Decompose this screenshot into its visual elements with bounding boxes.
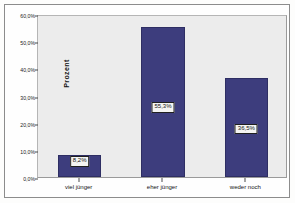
bar[interactable]: 55,3% xyxy=(141,27,184,177)
bar[interactable]: 36,5% xyxy=(225,78,268,177)
y-axis-tick-mark xyxy=(35,43,38,44)
y-axis-tick-label: 20,0% xyxy=(20,122,35,128)
y-axis-tick-mark xyxy=(35,151,38,152)
y-axis-tick-label: 0,0% xyxy=(23,176,35,182)
x-axis-tick-label: weder noch xyxy=(230,184,261,190)
y-axis-tick-mark xyxy=(35,124,38,125)
bar-value-label: 55,3% xyxy=(151,102,174,113)
plot-area: Prozent 0,0%10,0%20,0%30,0%40,0%50,0%60,… xyxy=(37,15,287,178)
y-axis-tick-label: 60,0% xyxy=(20,13,35,19)
x-axis-tick-label: eher jünger xyxy=(147,184,177,190)
y-axis-tick-mark xyxy=(35,70,38,71)
y-axis-tick-mark xyxy=(35,16,38,17)
x-axis: viel jüngereher jüngerweder noch xyxy=(37,178,287,200)
x-axis-tick-mark xyxy=(78,178,79,182)
y-axis-tick-label: 50,0% xyxy=(20,40,35,46)
bar[interactable]: 8,2% xyxy=(58,155,101,177)
y-axis-tick-label: 30,0% xyxy=(20,95,35,101)
y-axis-tick-label: 40,0% xyxy=(20,67,35,73)
bar-value-label: 8,2% xyxy=(70,156,90,167)
y-axis-title: Prozent xyxy=(63,24,70,124)
y-axis-tick-label: 10,0% xyxy=(20,149,35,155)
x-axis-tick-mark xyxy=(245,178,246,182)
y-axis-tick-mark xyxy=(35,97,38,98)
bar-value-label: 36,5% xyxy=(235,124,258,135)
figure-frame: Prozent 0,0%10,0%20,0%30,0%40,0%50,0%60,… xyxy=(4,4,290,198)
x-axis-tick-label: viel jünger xyxy=(65,184,92,190)
x-axis-tick-mark xyxy=(162,178,163,182)
